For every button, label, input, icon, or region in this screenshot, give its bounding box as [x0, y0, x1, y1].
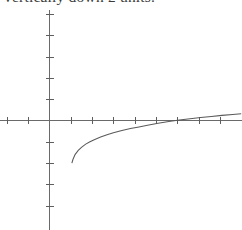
coordinate-plane — [0, 0, 242, 230]
figure-screenshot: vertically down 2 units. — [0, 0, 242, 230]
